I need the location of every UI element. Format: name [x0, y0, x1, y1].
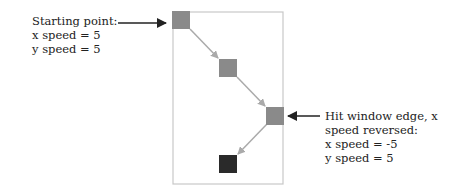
start-label-title: Starting point: [32, 14, 117, 28]
path-arrow-1 [190, 29, 218, 58]
start-label: Starting point: x speed = 5 y speed = 5 [32, 14, 117, 56]
edge-label-title: Hit window edge, x [325, 109, 438, 123]
ball-position-1 [172, 11, 190, 29]
edge-label-subtitle: speed reversed: [325, 123, 438, 137]
edge-label: Hit window edge, x speed reversed: x spe… [325, 109, 438, 165]
edge-x-speed: x speed = -5 [325, 137, 438, 151]
path-arrow-3 [238, 124, 267, 154]
ball-position-2 [219, 59, 237, 77]
start-x-speed: x speed = 5 [32, 28, 117, 42]
ball-position-3 [266, 107, 284, 125]
path-arrow-2 [237, 77, 265, 106]
ball-position-4 [219, 155, 237, 173]
start-y-speed: y speed = 5 [32, 42, 117, 56]
edge-y-speed: y speed = 5 [325, 151, 438, 165]
